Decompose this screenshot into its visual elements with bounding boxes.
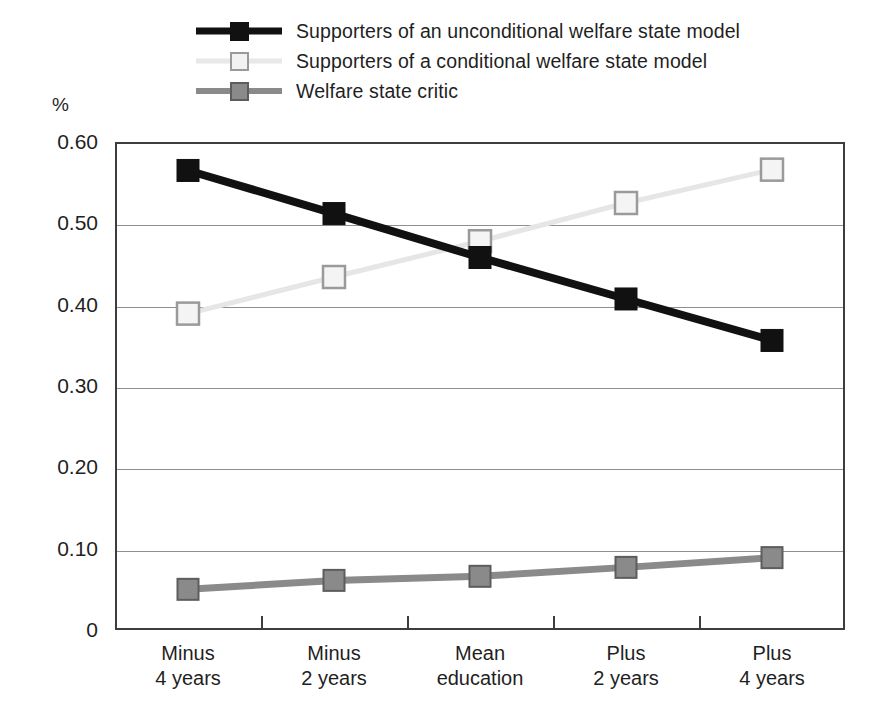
data-point-marker[interactable]: [177, 303, 199, 325]
data-series-layer: [0, 0, 874, 719]
data-point-marker[interactable]: [323, 203, 345, 225]
data-point-marker[interactable]: [177, 159, 199, 181]
data-point-marker[interactable]: [761, 159, 783, 181]
series-1: [177, 159, 783, 325]
data-point-marker[interactable]: [616, 557, 637, 578]
data-point-marker[interactable]: [324, 570, 345, 591]
series-2: [178, 547, 783, 600]
data-point-marker[interactable]: [761, 329, 783, 351]
chart-container: Supporters of an unconditional welfare s…: [0, 0, 874, 719]
data-point-marker[interactable]: [178, 579, 199, 600]
data-point-marker[interactable]: [470, 566, 491, 587]
data-point-marker[interactable]: [323, 266, 345, 288]
data-point-marker[interactable]: [615, 192, 637, 214]
data-point-marker[interactable]: [762, 547, 783, 568]
data-point-marker[interactable]: [615, 288, 637, 310]
data-point-marker[interactable]: [469, 246, 491, 268]
